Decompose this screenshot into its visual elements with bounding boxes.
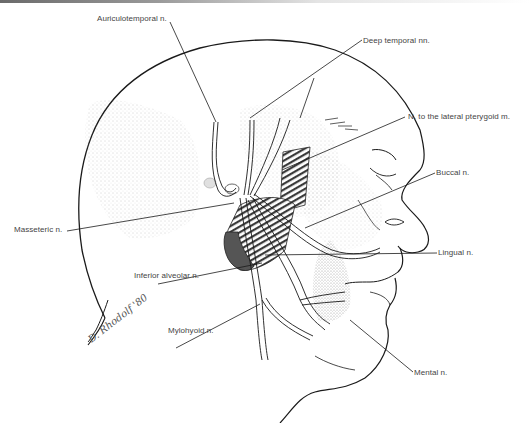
anatomical-illustration: Auriculotemporal n. Deep temporal nn. N.… xyxy=(0,0,530,423)
label-deep-temporal: Deep temporal nn. xyxy=(363,36,430,46)
label-auriculotemporal: Auriculotemporal n. xyxy=(97,14,167,24)
label-buccal: Buccal n. xyxy=(436,168,469,178)
stipple-shading xyxy=(85,100,382,322)
ear-cut xyxy=(204,178,239,194)
label-mental: Mental n. xyxy=(414,368,447,378)
label-inferior-alveolar: Inferior alveolar n. xyxy=(134,271,199,281)
label-mylohyoid: Mylohyoid n. xyxy=(168,326,214,336)
head-drawing xyxy=(0,0,530,423)
masseter-muscle xyxy=(224,198,295,271)
label-lateral-pterygoid: N. to the lateral pterygoid m. xyxy=(408,112,510,122)
label-masseteric: Masseteric n. xyxy=(14,225,62,235)
label-lingual: Lingual n. xyxy=(438,248,473,258)
